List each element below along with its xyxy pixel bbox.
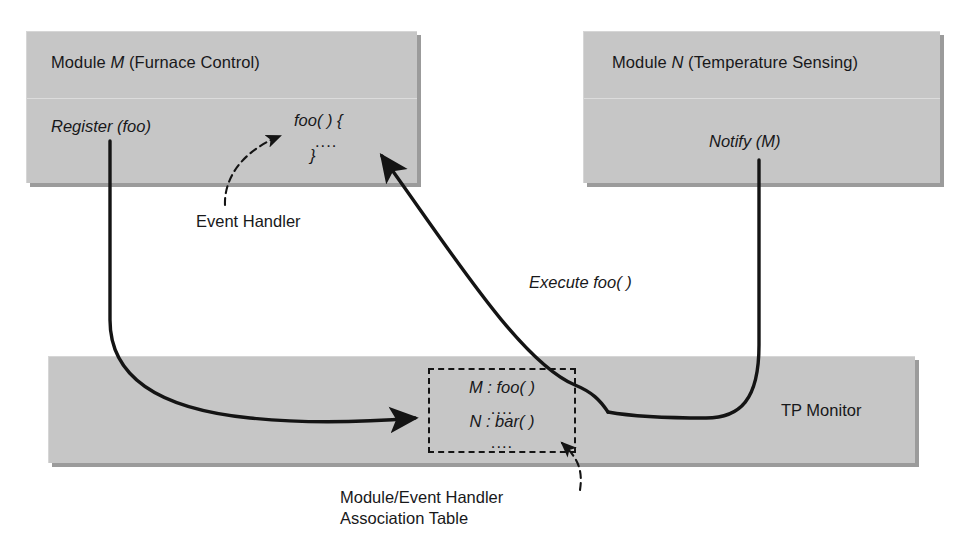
association-table-caption-line-1: Module/Event Handler bbox=[340, 487, 503, 508]
module-n-divider bbox=[584, 98, 940, 99]
module-n-title-letter: N bbox=[671, 53, 683, 71]
module-m-title: Module M (Furnace Control) bbox=[51, 53, 260, 72]
module-m-handler-line-1: foo( ) { bbox=[294, 111, 343, 130]
module-n-title: Module N (Temperature Sensing) bbox=[612, 53, 858, 72]
module-n-box: Module N (Temperature Sensing) Notify (M… bbox=[583, 31, 940, 183]
execute-foo-annotation: Execute foo( ) bbox=[529, 272, 632, 293]
event-handler-annotation: Event Handler bbox=[196, 211, 301, 232]
module-m-title-prefix: Module bbox=[51, 53, 110, 71]
assoc-table-row: M : foo( ) bbox=[430, 378, 574, 397]
module-m-divider bbox=[27, 98, 417, 99]
association-table-caption-line-2: Association Table bbox=[340, 508, 503, 529]
module-m-title-letter: M bbox=[110, 53, 124, 71]
assoc-table-row: N : bar( ) bbox=[430, 412, 574, 431]
module-m-register-label: Register (foo) bbox=[51, 117, 151, 136]
module-n-title-prefix: Module bbox=[612, 53, 671, 71]
assoc-table-row: .... bbox=[430, 433, 574, 452]
diagram-canvas: Module M (Furnace Control) Register (foo… bbox=[0, 0, 964, 559]
module-m-handler-line-3: } bbox=[310, 146, 316, 165]
module-n-notify-label: Notify (M) bbox=[709, 132, 781, 151]
tp-monitor-label: TP Monitor bbox=[781, 400, 861, 421]
module-m-box: Module M (Furnace Control) Register (foo… bbox=[26, 31, 417, 183]
association-table-caption: Module/Event Handler Association Table bbox=[340, 487, 503, 529]
module-m-title-suffix: (Furnace Control) bbox=[124, 53, 260, 71]
module-m-handler-line-2: .... bbox=[315, 132, 337, 151]
module-n-title-suffix: (Temperature Sensing) bbox=[683, 53, 858, 71]
module-event-handler-association-table: M : foo( ) .... N : bar( ) .... bbox=[428, 368, 576, 453]
